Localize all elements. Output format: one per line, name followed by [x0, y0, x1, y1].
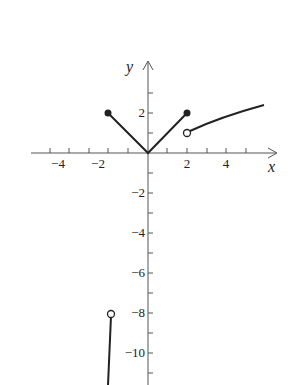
- open-point-icon: [108, 311, 115, 318]
- closed-point-icon: [184, 110, 191, 117]
- y-axis-label: y: [124, 58, 134, 76]
- x-tick-label: −2: [91, 156, 105, 171]
- x-tick-label: −4: [51, 156, 65, 171]
- closed-point-icon: [105, 110, 112, 117]
- x-tick-label: 2: [184, 156, 191, 171]
- y-tick-label: −6: [131, 265, 145, 280]
- x-tick-label: 4: [223, 156, 230, 171]
- y-tick-label: −4: [131, 225, 145, 240]
- left-cubic-piece: [108, 316, 111, 385]
- open-point-icon: [184, 130, 191, 137]
- y-ticks: [148, 93, 153, 373]
- x-axis-label: x: [267, 158, 275, 175]
- right-curve-piece: [190, 105, 264, 131]
- y-tick-label: −10: [125, 345, 145, 360]
- y-tick-label: −2: [131, 185, 145, 200]
- function-graph: y x −4 −2 2 4 2 −2 −4 −6 −8 −10: [0, 0, 296, 385]
- y-tick-label: 2: [139, 105, 146, 120]
- y-tick-label: −8: [131, 305, 145, 320]
